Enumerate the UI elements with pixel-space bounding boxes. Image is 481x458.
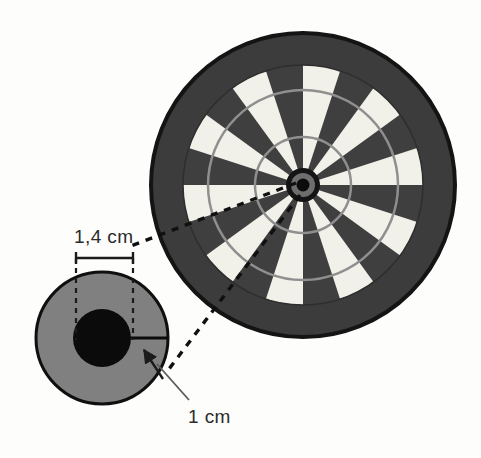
figure-root: 1,4 cm 1 cm bbox=[0, 0, 481, 458]
bullseye-center-dot bbox=[297, 179, 310, 192]
cross-section bbox=[36, 272, 168, 404]
dartboard-figure: 1,4 cm 1 cm bbox=[0, 0, 481, 458]
dartboard bbox=[151, 33, 455, 337]
radius-dimension-label: 1 cm bbox=[188, 406, 231, 427]
width-dimension-label: 1,4 cm bbox=[74, 226, 133, 247]
